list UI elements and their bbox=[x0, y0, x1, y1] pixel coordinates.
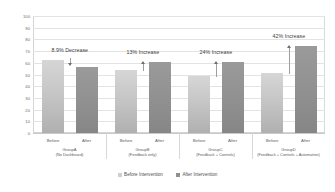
bar-after bbox=[295, 46, 317, 133]
bar-after bbox=[149, 62, 171, 133]
x-tick-after: After bbox=[286, 138, 326, 143]
arrow-up-icon bbox=[287, 45, 291, 48]
y-axis-tick-label: 10 bbox=[0, 119, 30, 124]
change-annotation-label: 42% Increase bbox=[244, 33, 334, 39]
group-separator bbox=[252, 133, 253, 159]
bar-before bbox=[42, 60, 64, 133]
annotation-arrow-stem bbox=[143, 64, 144, 71]
annotation-arrow-stem bbox=[289, 48, 290, 74]
y-axis-tick-label: 30 bbox=[0, 96, 30, 101]
y-axis-tick-label: 80 bbox=[0, 37, 30, 42]
chart-legend: Before Intervention After Intervention bbox=[0, 172, 335, 177]
gridline bbox=[33, 16, 325, 17]
annotation-arrow-stem bbox=[216, 64, 217, 77]
group-separator bbox=[106, 133, 107, 159]
bar-before bbox=[261, 73, 283, 133]
bar-before bbox=[188, 76, 210, 133]
legend-item-after[interactable]: After Intervention bbox=[176, 172, 217, 177]
y-axis-tick-label: 90 bbox=[0, 25, 30, 30]
bar-before bbox=[115, 70, 137, 133]
legend-item-before[interactable]: Before Intervention bbox=[118, 172, 163, 177]
gridline bbox=[33, 63, 325, 64]
group-label: GroupD(Feedback + Controls + Automation) bbox=[234, 147, 335, 158]
change-annotation-label: 24% Increase bbox=[171, 49, 261, 55]
y-axis-tick-label: 0 bbox=[0, 131, 30, 136]
bar-chart: Organisation's Energy Efficient Product … bbox=[0, 0, 335, 192]
y-axis-tick-label: 40 bbox=[0, 84, 30, 89]
arrow-up-icon bbox=[214, 61, 218, 64]
x-tick-after: After bbox=[67, 138, 107, 143]
x-tick-after: After bbox=[140, 138, 180, 143]
arrow-up-icon bbox=[141, 61, 145, 64]
group-separator bbox=[179, 133, 180, 159]
legend-swatch-before-icon bbox=[118, 173, 122, 177]
legend-label-after: After Intervention bbox=[182, 172, 217, 177]
y-axis-tick-label: 50 bbox=[0, 72, 30, 77]
gridline bbox=[33, 39, 325, 40]
y-axis-tick-label: 20 bbox=[0, 107, 30, 112]
legend-swatch-after-icon bbox=[176, 173, 180, 177]
legend-label-before: Before Intervention bbox=[124, 172, 163, 177]
y-axis-tick-label: 100 bbox=[0, 14, 30, 19]
gridline bbox=[33, 28, 325, 29]
bar-after bbox=[222, 62, 244, 133]
bar-after bbox=[76, 67, 98, 133]
arrow-down-icon bbox=[68, 63, 72, 66]
y-axis-tick-label: 60 bbox=[0, 61, 30, 66]
x-tick-after: After bbox=[213, 138, 253, 143]
